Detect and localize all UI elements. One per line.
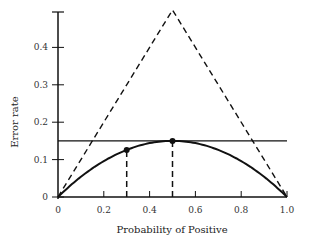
data-point <box>124 147 130 153</box>
x-tick-label: 0 <box>55 205 61 215</box>
error-curve <box>58 141 287 197</box>
x-axis-label: Probability of Positive <box>116 224 227 235</box>
error-rate-chart: 00.20.40.60.81.0 00.10.20.30.4 Probabili… <box>0 0 310 244</box>
y-tick-label: 0 <box>42 192 48 202</box>
x-tick-label: 0.6 <box>188 205 203 215</box>
y-tick-label: 0.4 <box>34 42 49 52</box>
y-tick-label: 0.2 <box>34 117 48 127</box>
y-tick-label: 0.1 <box>34 155 48 165</box>
x-tick-label: 0.8 <box>234 205 249 215</box>
x-tick-label: 0.4 <box>142 205 157 215</box>
x-tick-label: 0.2 <box>97 205 111 215</box>
y-axis-label: Error rate <box>9 96 20 148</box>
plot-area <box>52 10 287 199</box>
x-tick-label: 1.0 <box>280 205 295 215</box>
y-axis-ticks: 00.10.20.30.4 <box>34 42 64 202</box>
x-axis-ticks: 00.20.40.60.81.0 <box>55 191 294 215</box>
y-tick-label: 0.3 <box>34 80 49 90</box>
data-point <box>170 138 176 144</box>
